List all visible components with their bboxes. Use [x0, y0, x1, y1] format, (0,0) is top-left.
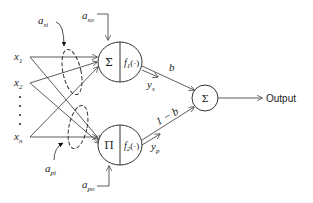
- a-si-pointer-icon: [56, 22, 64, 46]
- input-connections: [30, 57, 100, 143]
- a-si-weight-ellipse: [58, 48, 85, 97]
- lower-pi-node: Π f2(·): [98, 125, 142, 165]
- upper-sigma-node: Σ f1(·): [98, 42, 142, 82]
- output-label: Output: [266, 93, 296, 104]
- ys-label: ys: [146, 78, 155, 93]
- a-pi-weight-ellipse: [65, 104, 92, 151]
- svg-text:x1: x1: [13, 50, 22, 65]
- svg-text:xn: xn: [13, 130, 23, 145]
- a-po-label: apo: [82, 178, 95, 193]
- input-x1: x1: [13, 50, 22, 65]
- a-pi-label: api: [45, 162, 56, 177]
- sum-sigma-symbol: Σ: [201, 93, 208, 104]
- a-so-label: aso: [82, 9, 94, 24]
- a-si-label: asi: [38, 14, 48, 29]
- input-ellipsis: [19, 96, 21, 125]
- a-pi-pointer-icon: [54, 143, 63, 160]
- input-xn: xn: [13, 130, 23, 145]
- svg-text:x2: x2: [13, 76, 23, 91]
- weight-b-label: b: [169, 61, 175, 73]
- a-so-connector: [97, 14, 108, 40]
- diagram-canvas: x1 x2 xn asi api aso apo Σ f1(·): [0, 0, 313, 203]
- input-x2: x2: [13, 76, 23, 91]
- sigma-symbol: Σ: [105, 56, 113, 69]
- sum-node: Σ: [192, 85, 218, 111]
- a-po-connector: [97, 166, 109, 186]
- pi-symbol: Π: [104, 139, 114, 152]
- yp-label: yp: [150, 140, 160, 155]
